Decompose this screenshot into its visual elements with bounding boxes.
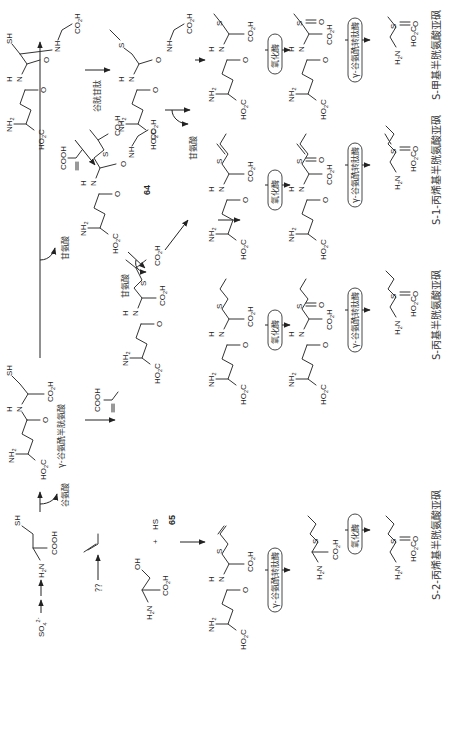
svg-text:H: H bbox=[79, 180, 88, 186]
svg-text:N: N bbox=[217, 46, 226, 52]
glutamate-label: 谷氨酸 bbox=[60, 483, 70, 507]
svg-text:N: N bbox=[217, 576, 226, 582]
svg-text:氧化酶: 氧化酶 bbox=[350, 524, 360, 548]
svg-text:HO2C: HO2C bbox=[409, 151, 419, 172]
enzyme-box-d2: γ-谷氨酰转肽酶 bbox=[348, 18, 362, 82]
svg-text:NH2: NH2 bbox=[207, 227, 217, 242]
svg-text:CO2H: CO2H bbox=[246, 21, 256, 42]
svg-text:HO2C: HO2C bbox=[37, 129, 47, 150]
svg-text:NH2: NH2 bbox=[287, 372, 297, 387]
svg-text:HO2C: HO2C bbox=[111, 233, 121, 254]
enzyme-box-a2: 氧化酶 bbox=[348, 514, 362, 554]
svg-text:H: H bbox=[287, 46, 296, 52]
svg-text:HO2C: HO2C bbox=[319, 239, 329, 260]
gamma-glutamylcysteine-label: γ-谷氨酰半胱氨酸 bbox=[56, 404, 66, 468]
svg-text:S: S bbox=[389, 294, 398, 299]
enzyme-box-b1: 氧化酶 bbox=[268, 310, 282, 350]
svg-text:CO2H: CO2H bbox=[158, 285, 168, 306]
arrow-64-down bbox=[128, 252, 145, 268]
svg-text:O: O bbox=[241, 342, 250, 348]
svg-text:NH: NH bbox=[165, 40, 174, 52]
svg-text:HO2C: HO2C bbox=[239, 239, 249, 260]
svg-text:CO2H: CO2H bbox=[325, 24, 335, 45]
glycine-label-2: 甘氨酸 bbox=[120, 274, 130, 298]
svg-text:HS: HS bbox=[151, 519, 160, 530]
compound-64-number: 64 bbox=[142, 185, 152, 195]
svg-text:NH2: NH2 bbox=[287, 87, 297, 102]
s-carboxypropyl-gamma-glutamylcysteine: HO2C NH2 O N H S CO2H CO2H bbox=[121, 245, 168, 384]
svg-text:N: N bbox=[297, 186, 306, 192]
svg-text:CO2H: CO2H bbox=[325, 164, 335, 185]
s-methyl-gamma-glutamylcysteine: HO2C NH2 O N H S CO2H bbox=[207, 14, 256, 120]
glutathione-label: 谷胱甘肽 bbox=[92, 80, 102, 112]
final-product-label-propenyl-1: S-1-丙烯基半胱氨酸亚砜 bbox=[430, 115, 442, 225]
svg-text:O: O bbox=[411, 291, 420, 297]
enzyme-box-c2: γ-谷氨酰转肽酶 bbox=[348, 143, 362, 207]
s-2-propenyl-cysteine: H2N S CO2H bbox=[308, 516, 341, 580]
svg-text:NH2: NH2 bbox=[7, 448, 17, 463]
sulfate: SO42- bbox=[35, 617, 48, 637]
compound-65-number: 65 bbox=[167, 515, 177, 525]
svg-text:S: S bbox=[215, 21, 224, 26]
arrow-methacrylic-branch bbox=[75, 140, 95, 165]
svg-text:γ-谷氨酰转肽酶: γ-谷氨酰转肽酶 bbox=[350, 147, 360, 203]
svg-text:O: O bbox=[119, 161, 128, 167]
unknown-label: ?? bbox=[95, 584, 104, 593]
svg-text:O: O bbox=[317, 157, 326, 163]
svg-text:COOH: COOH bbox=[50, 531, 59, 555]
svg-text:O: O bbox=[411, 21, 420, 27]
glycine-branch-arrow-1 bbox=[40, 248, 55, 260]
svg-text:O: O bbox=[154, 57, 163, 63]
svg-text:O: O bbox=[113, 191, 122, 197]
svg-text:O: O bbox=[41, 417, 50, 423]
svg-text:CO2H: CO2H bbox=[185, 13, 195, 34]
svg-text:CO2H: CO2H bbox=[325, 309, 335, 330]
svg-text:H: H bbox=[5, 76, 14, 82]
svg-text:H2N: H2N bbox=[393, 50, 403, 65]
svg-text:O: O bbox=[155, 321, 164, 327]
svg-text:H: H bbox=[207, 186, 216, 192]
svg-text:NH: NH bbox=[127, 146, 136, 158]
svg-text:O: O bbox=[321, 342, 330, 348]
svg-text:O: O bbox=[317, 19, 326, 25]
svg-text:HO2C: HO2C bbox=[239, 629, 249, 650]
svg-text:H: H bbox=[207, 576, 216, 582]
svg-text:HO2C: HO2C bbox=[153, 363, 163, 384]
s-1-propenyl-gamma-glutamylcysteine: HO2C NH2 O N H S CO2H bbox=[207, 134, 256, 260]
svg-text:O: O bbox=[241, 587, 250, 593]
svg-text:γ-谷氨酰转肽酶: γ-谷氨酰转肽酶 bbox=[270, 552, 280, 608]
svg-text:NH2: NH2 bbox=[5, 117, 15, 132]
svg-text:CO2H: CO2H bbox=[149, 119, 159, 140]
methacrylic-acid-2: COOH bbox=[93, 388, 118, 412]
svg-text:O: O bbox=[321, 197, 330, 203]
svg-text:S: S bbox=[139, 281, 148, 286]
svg-text:SH: SH bbox=[5, 33, 14, 44]
compound-64: HO2C NH2 O N H S CO2H O NH CO2H bbox=[79, 115, 159, 254]
svg-text:N: N bbox=[127, 76, 136, 82]
svg-text:N: N bbox=[217, 186, 226, 192]
svg-text:HO2C: HO2C bbox=[409, 541, 419, 562]
svg-text:H2N: H2N bbox=[393, 320, 403, 335]
svg-text:COOH: COOH bbox=[93, 388, 102, 412]
s-methyl-gamma-glutamylcysteine-sulfoxide: HO2C NH2 O N H S O CO2H bbox=[287, 14, 335, 120]
methacrylic-acid-1: COOH bbox=[59, 146, 82, 170]
svg-text:NH: NH bbox=[53, 40, 62, 52]
svg-text:HO2C: HO2C bbox=[319, 384, 329, 405]
svg-text:NH2: NH2 bbox=[79, 221, 89, 236]
svg-text:S: S bbox=[389, 539, 398, 544]
svg-text:S: S bbox=[215, 549, 224, 554]
s-1-propenyl-cysteine-sulfoxide: H2N S O HO2C bbox=[385, 126, 420, 190]
s-propyl-gamma-glutamylcysteine: HO2C NH2 O N H S CO2H bbox=[207, 279, 256, 405]
svg-text:COOH: COOH bbox=[59, 146, 68, 170]
svg-text:CO2H: CO2H bbox=[246, 551, 256, 572]
svg-text:S: S bbox=[295, 21, 304, 26]
svg-text:S: S bbox=[215, 304, 224, 309]
svg-text:CO2H: CO2H bbox=[246, 161, 256, 182]
s-propyl-gamma-glutamylcysteine-sulfoxide: HO2C NH2 O N H S O CO2H bbox=[287, 279, 335, 405]
svg-text:N: N bbox=[15, 76, 24, 82]
svg-text:CO2H: CO2H bbox=[113, 115, 123, 136]
svg-text:NH2: NH2 bbox=[121, 351, 131, 366]
svg-text:γ-谷氨酰转肽酶: γ-谷氨酰转肽酶 bbox=[350, 292, 360, 348]
svg-text:H2N: H2N bbox=[315, 565, 325, 580]
enzyme-box-b2: γ-谷氨酰转肽酶 bbox=[348, 288, 362, 352]
